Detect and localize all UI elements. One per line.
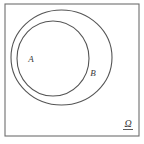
venn-diagram-figure: A B Ω (0, 0, 144, 144)
set-b-circle (11, 10, 112, 105)
set-a-label: A (27, 54, 34, 64)
universe-rectangle (5, 4, 139, 136)
universe-omega-label: Ω (124, 118, 131, 129)
venn-diagram-canvas: A B Ω (0, 0, 144, 144)
set-b-label: B (90, 68, 96, 78)
